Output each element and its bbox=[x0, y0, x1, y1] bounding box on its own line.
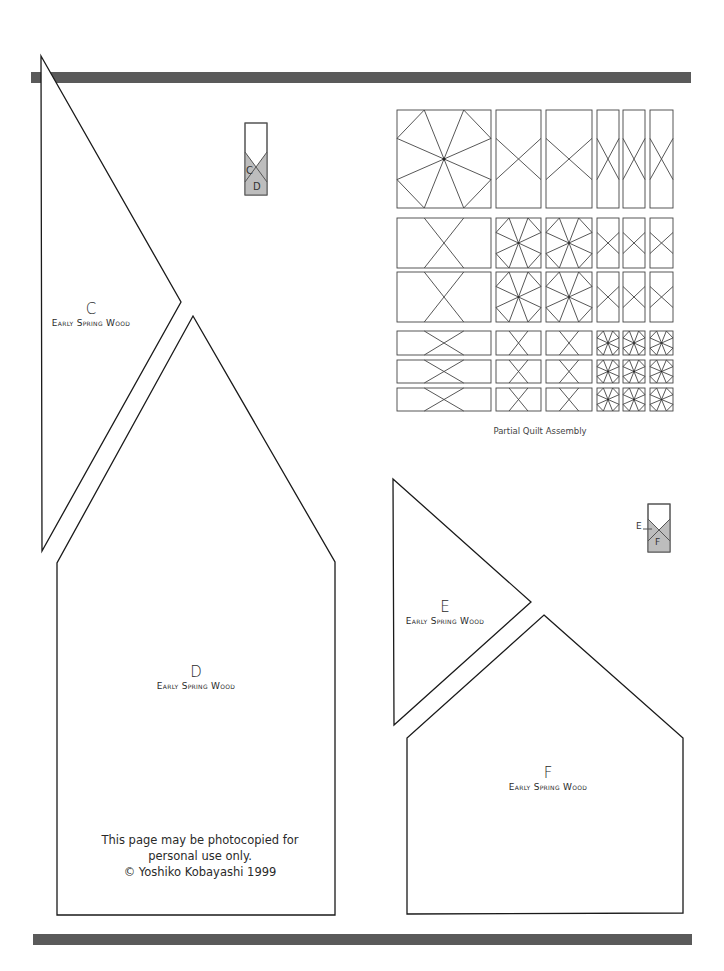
piece-f-letter: F bbox=[483, 764, 613, 782]
notice-line-1: This page may be photocopied for bbox=[90, 832, 310, 848]
piece-f-fabric: Early Spring Wood bbox=[483, 782, 613, 792]
piece-c-letter: C bbox=[36, 300, 146, 318]
copyright-notice: This page may be photocopied for persona… bbox=[90, 832, 310, 880]
key-ef-top-letter: E bbox=[636, 521, 642, 531]
quilt-assembly-diagram bbox=[397, 110, 673, 411]
piece-c-fabric: Early Spring Wood bbox=[36, 318, 146, 328]
piece-d-fabric: Early Spring Wood bbox=[131, 681, 261, 691]
piece-e-label: E Early Spring Wood bbox=[390, 598, 500, 626]
quilt-assembly-caption: Partial Quilt Assembly bbox=[480, 426, 600, 436]
key-cd-bottom-letter: D bbox=[253, 181, 261, 192]
piece-c-label: C Early Spring Wood bbox=[36, 300, 146, 328]
piece-d-letter: D bbox=[131, 663, 261, 681]
piece-e-fabric: Early Spring Wood bbox=[390, 616, 500, 626]
key-cd-top-letter: C bbox=[246, 165, 253, 176]
notice-line-2: personal use only. bbox=[90, 848, 310, 864]
piece-f-label: F Early Spring Wood bbox=[483, 764, 613, 792]
piece-d-label: D Early Spring Wood bbox=[131, 663, 261, 691]
pattern-pieces bbox=[0, 0, 724, 971]
key-ef-bottom-letter: F bbox=[655, 537, 660, 547]
piece-e-letter: E bbox=[390, 598, 500, 616]
notice-line-3: © Yoshiko Kobayashi 1999 bbox=[90, 864, 310, 880]
